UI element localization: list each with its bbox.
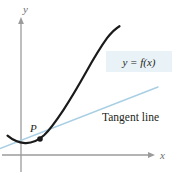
- y-axis: [18, 17, 24, 172]
- tangency-point-marker: [37, 136, 43, 142]
- y-axis-arrow-icon: [18, 17, 24, 24]
- function-label-box: y = f(x): [106, 51, 172, 72]
- y-axis-label: y: [23, 4, 28, 15]
- tangent-line-label: Tangent line: [102, 112, 159, 124]
- tangent-line-figure: y x P y = f(x) Tangent line: [0, 0, 189, 179]
- function-curve: [8, 26, 120, 143]
- x-axis-arrow-icon: [148, 152, 155, 158]
- x-axis: [2, 152, 155, 158]
- tangency-point-label: P: [30, 123, 37, 134]
- x-axis-label: x: [160, 150, 165, 161]
- function-label-text: y = f(x): [106, 51, 172, 72]
